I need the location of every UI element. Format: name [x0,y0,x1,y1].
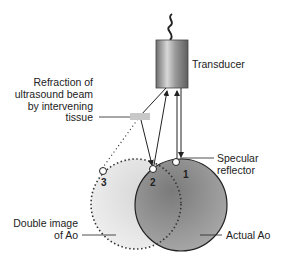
specular-label-line2: reflector [217,164,255,176]
actual-ao-label: Actual Ao [226,229,271,241]
intervening-tissue-marker [130,113,150,120]
echo-beam-2 [154,91,167,165]
specular-label-line1: Specular [217,152,259,164]
refraction-label-line2: ultrasound beam [15,88,93,100]
point-2-label: 2 [150,177,156,188]
transducer-icon [156,40,188,88]
ultrasound-refraction-diagram: 1 2 3 Transducer Refraction of ultrasoun… [0,0,285,258]
refraction-label-line1: Refraction of [33,76,93,88]
point-1-label: 1 [183,169,189,180]
point-1 [173,159,180,166]
point-3-label: 3 [101,177,107,188]
double-image-label-line2: of Ao [54,229,78,241]
refracted-beam-down [140,116,152,165]
refracted-beam-out [140,88,166,116]
point-3 [100,168,107,175]
double-image-label-line1: Double image [13,217,78,229]
transducer-label: Transducer [192,58,245,70]
transducer-cable [168,14,172,40]
refraction-label-line4: tissue [66,111,94,123]
apparent-path-dotted [104,116,140,166]
point-2 [150,166,157,173]
